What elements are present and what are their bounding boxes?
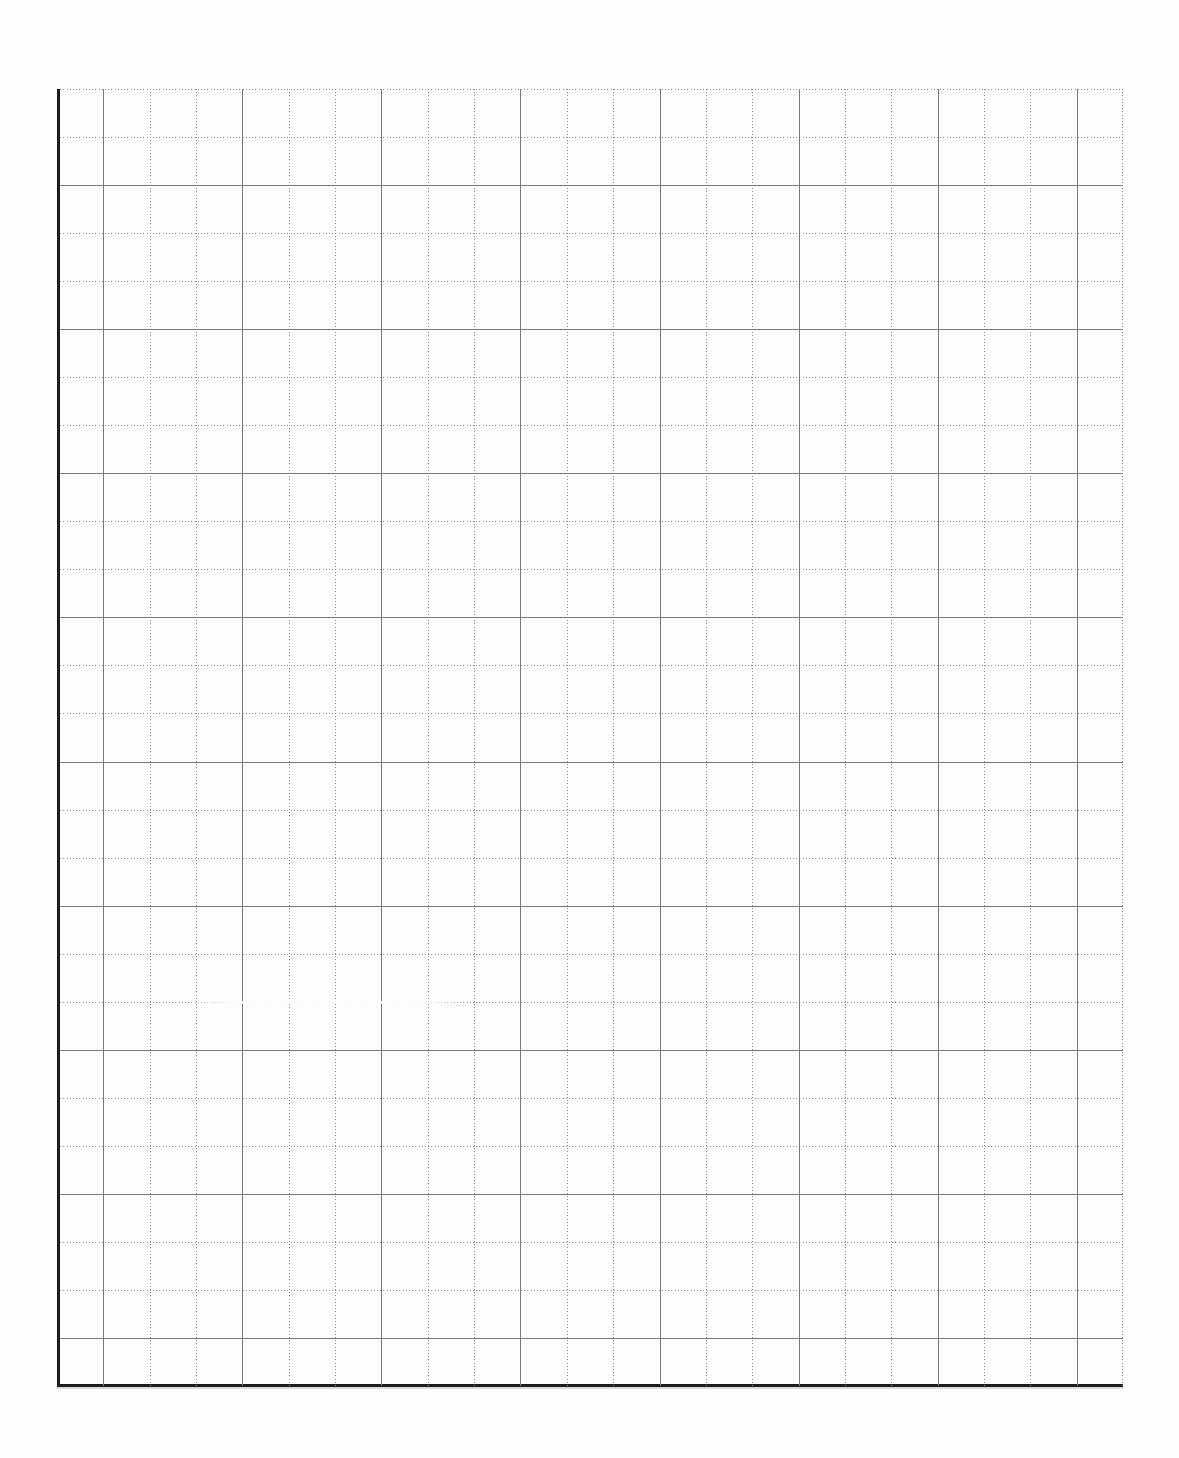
grid-major-hline bbox=[57, 473, 1123, 474]
grid-minor-hline bbox=[57, 713, 1123, 714]
grid-major-vline bbox=[938, 89, 939, 1386]
grid-minor-hline bbox=[57, 954, 1123, 955]
grid-major-vline bbox=[660, 89, 661, 1386]
grid-major-hline bbox=[57, 1194, 1123, 1195]
grid-major-hline bbox=[57, 906, 1123, 907]
grid-minor-vline bbox=[1030, 89, 1031, 1386]
grid-minor-hline bbox=[57, 569, 1123, 570]
grid-major-vline bbox=[799, 89, 800, 1386]
grid-minor-vline bbox=[335, 89, 336, 1386]
grid-minor-hline bbox=[57, 425, 1123, 426]
grid-minor-hline bbox=[57, 377, 1123, 378]
grid-major-hline bbox=[57, 762, 1123, 763]
grid-minor-vline bbox=[150, 89, 151, 1386]
grid-right-edge bbox=[1122, 89, 1123, 1386]
grid-minor-hline bbox=[57, 1242, 1123, 1243]
grid-minor-vline bbox=[428, 89, 429, 1386]
grid-minor-vline bbox=[845, 89, 846, 1386]
grid-minor-hline bbox=[57, 1098, 1123, 1099]
grid-minor-vline bbox=[567, 89, 568, 1386]
grid-minor-hline bbox=[57, 1146, 1123, 1147]
grid-minor-hline bbox=[57, 521, 1123, 522]
grid-major-hline bbox=[57, 1338, 1123, 1339]
grid-major-hline bbox=[57, 185, 1123, 186]
grid-minor-vline bbox=[474, 89, 475, 1386]
grid-top-edge bbox=[57, 89, 1123, 90]
graph-paper-sheet bbox=[0, 0, 1179, 1458]
grid-major-vline bbox=[381, 89, 382, 1386]
grid-minor-hline bbox=[57, 137, 1123, 138]
grid-minor-vline bbox=[891, 89, 892, 1386]
grid-major-hline bbox=[57, 329, 1123, 330]
grid-minor-hline bbox=[57, 665, 1123, 666]
grid-minor-vline bbox=[289, 89, 290, 1386]
grid-bottom-border bbox=[57, 1384, 1123, 1387]
grid-minor-vline bbox=[706, 89, 707, 1386]
grid-minor-hline bbox=[57, 1002, 1123, 1003]
grid-minor-hline bbox=[57, 858, 1123, 859]
grid-area bbox=[57, 89, 1123, 1386]
grid-minor-hline bbox=[57, 281, 1123, 282]
grid-minor-hline bbox=[57, 1290, 1123, 1291]
grid-minor-hline bbox=[57, 810, 1123, 811]
grid-left-border bbox=[57, 89, 60, 1386]
grid-major-vline bbox=[242, 89, 243, 1386]
grid-major-vline bbox=[103, 89, 104, 1386]
grid-minor-vline bbox=[196, 89, 197, 1386]
grid-minor-vline bbox=[613, 89, 614, 1386]
grid-minor-vline bbox=[752, 89, 753, 1386]
grid-major-hline bbox=[57, 1050, 1123, 1051]
grid-major-vline bbox=[1077, 89, 1078, 1386]
grid-minor-vline bbox=[984, 89, 985, 1386]
grid-minor-hline bbox=[57, 233, 1123, 234]
grid-major-vline bbox=[520, 89, 521, 1386]
grid-major-hline bbox=[57, 617, 1123, 618]
